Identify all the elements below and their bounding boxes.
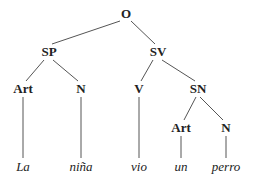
node-n-subject: N <box>76 82 85 96</box>
node-art-object: Art <box>171 121 191 135</box>
node-sv: SV <box>150 45 167 59</box>
word-vio: vio <box>131 160 147 174</box>
edge-o-sp <box>52 21 120 44</box>
node-sp: SP <box>41 45 56 59</box>
node-sn: SN <box>190 82 207 96</box>
edge-sn-n <box>200 97 223 120</box>
edge-o-sv <box>131 21 155 44</box>
word-la: La <box>16 160 30 174</box>
node-n-object: N <box>221 121 230 135</box>
tree-edges <box>0 0 256 183</box>
edge-sv-sn <box>162 60 195 81</box>
edge-sp-n <box>53 60 78 81</box>
word-nina: niña <box>69 160 92 174</box>
edge-sv-v <box>141 60 153 81</box>
node-v: V <box>134 82 143 96</box>
edge-sp-art <box>26 60 44 81</box>
word-perro: perro <box>212 160 240 174</box>
node-art-subject: Art <box>13 82 33 96</box>
node-o: O <box>121 7 131 21</box>
word-un: un <box>175 160 188 174</box>
edge-sn-art <box>184 97 196 120</box>
